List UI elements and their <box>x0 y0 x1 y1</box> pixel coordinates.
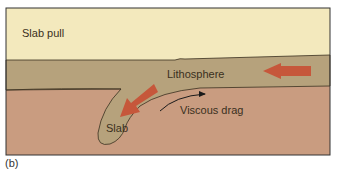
figure-caption: (b) <box>5 157 18 169</box>
subduction-diagram <box>0 0 337 171</box>
slab-pull-label: Slab pull <box>22 27 64 39</box>
slab-label: Slab <box>106 122 128 134</box>
lithosphere-label: Lithosphere <box>167 68 225 80</box>
mantle-layer <box>6 86 330 155</box>
viscous-drag-label: Viscous drag <box>180 104 243 116</box>
